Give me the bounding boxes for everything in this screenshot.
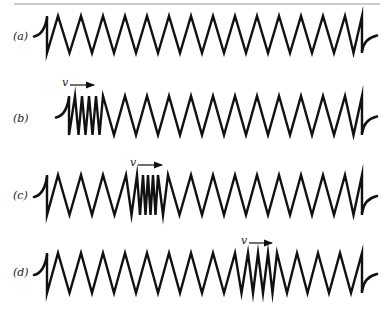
spring-left-end <box>56 98 69 118</box>
panel-label-c: (c) <box>13 189 28 202</box>
spring-right-end <box>362 274 377 291</box>
spring-d <box>34 243 377 293</box>
velocity-label: v <box>62 76 68 89</box>
spring-coils <box>47 16 362 53</box>
spring-left-end <box>34 18 47 37</box>
spring-a <box>34 16 377 53</box>
velocity-label: v <box>241 234 247 247</box>
spring-b <box>56 85 377 135</box>
spring-left-end <box>34 255 47 275</box>
panel-label-a: (a) <box>13 30 28 43</box>
spring-right-end <box>362 117 377 134</box>
spring-c <box>34 165 377 215</box>
spring-wave-diagram <box>0 0 392 312</box>
panel-label-d: (d) <box>13 266 29 279</box>
spring-coils <box>47 253 362 293</box>
spring-right-end <box>362 196 377 213</box>
spring-right-end <box>362 36 377 52</box>
spring-coils <box>47 175 362 215</box>
velocity-label: v <box>130 156 136 169</box>
panel-label-b: (b) <box>13 112 29 125</box>
spring-left-end <box>34 177 47 197</box>
spring-coils <box>69 96 362 135</box>
